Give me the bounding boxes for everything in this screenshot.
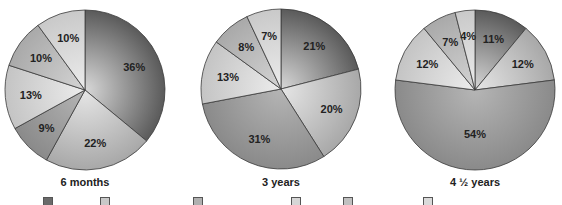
pie-title-4-half-years: 4 ½ years <box>395 176 555 188</box>
slice-percent-label: 8% <box>238 41 254 53</box>
slice-percent-label: 10% <box>57 32 79 44</box>
pie-title-6-months: 6 months <box>5 176 165 188</box>
slice-percent-label: 22% <box>84 137 106 149</box>
legend-swatch <box>100 197 110 205</box>
slice-percent-label: 54% <box>464 128 486 140</box>
legend-swatch <box>43 197 53 205</box>
pie-chart-3-years: 21%20%31%13%8%7% <box>201 9 361 169</box>
slice-percent-label: 7% <box>261 30 277 42</box>
slice-percent-label: 31% <box>248 133 270 145</box>
slice-percent-label: 9% <box>39 122 55 134</box>
slice-percent-label: 13% <box>217 71 239 83</box>
pie-title-3-years: 3 years <box>201 176 361 188</box>
slice-percent-label: 36% <box>123 61 145 73</box>
slice-percent-label: 13% <box>20 89 42 101</box>
slice-percent-label: 12% <box>416 58 438 70</box>
slice-percent-label: 21% <box>303 40 325 52</box>
slice-percent-label: 12% <box>512 58 534 70</box>
slice-percent-label: 10% <box>30 52 52 64</box>
slice-percent-label: 4% <box>460 30 476 42</box>
pie-chart-4-half-years: 11%12%54%12%7%4% <box>395 10 555 170</box>
legend-swatch <box>423 197 433 205</box>
legend-swatch <box>343 197 353 205</box>
pie-charts: 36%22%9%13%10%10% 21%20%31%13%8%7% 11%12… <box>0 0 562 205</box>
slice-percent-label: 7% <box>442 36 458 48</box>
pie-slice <box>395 80 555 170</box>
legend-swatch <box>193 197 203 205</box>
slice-percent-label: 11% <box>483 33 505 45</box>
legend-swatch <box>291 197 301 205</box>
pie-chart-6-months: 36%22%9%13%10%10% <box>5 10 165 170</box>
slice-percent-label: 20% <box>321 103 343 115</box>
